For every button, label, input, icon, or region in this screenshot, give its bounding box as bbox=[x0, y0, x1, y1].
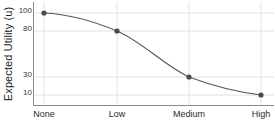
y-tick-label: 100 bbox=[10, 7, 32, 15]
x-tick-label-medium: Medium bbox=[173, 109, 205, 119]
y-tick-label: 30 bbox=[10, 71, 32, 79]
data-point-high bbox=[258, 92, 263, 97]
x-axis-tick-labels: None Low Medium High bbox=[33, 107, 274, 125]
line-chart: Expected Utility (u) 100 80 30 10 bbox=[0, 0, 275, 128]
plot-svg bbox=[33, 2, 274, 106]
data-line-expected-utility bbox=[44, 13, 261, 95]
data-point-low bbox=[114, 28, 119, 33]
x-tick-label-low: Low bbox=[109, 109, 126, 119]
y-tick-label: 80 bbox=[10, 25, 32, 33]
y-axis-tick-labels: 100 80 30 10 bbox=[8, 0, 32, 108]
x-tick-label-none: None bbox=[33, 109, 55, 119]
x-tick-label-high: High bbox=[252, 109, 271, 119]
y-tick-label: 10 bbox=[10, 89, 32, 97]
data-point-medium bbox=[186, 74, 191, 79]
data-point-none bbox=[41, 10, 46, 15]
plot-area bbox=[33, 2, 274, 106]
